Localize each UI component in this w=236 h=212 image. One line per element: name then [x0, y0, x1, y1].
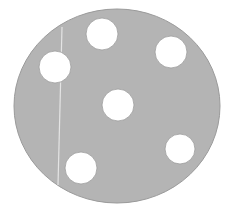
- hole-bottom-left: [65, 152, 97, 184]
- hole-left: [39, 51, 71, 83]
- hole-center: [102, 89, 134, 121]
- hole-right: [165, 134, 195, 164]
- hole-upper-right: [155, 36, 187, 68]
- disc-illustration: [0, 0, 236, 212]
- hole-top: [86, 18, 118, 50]
